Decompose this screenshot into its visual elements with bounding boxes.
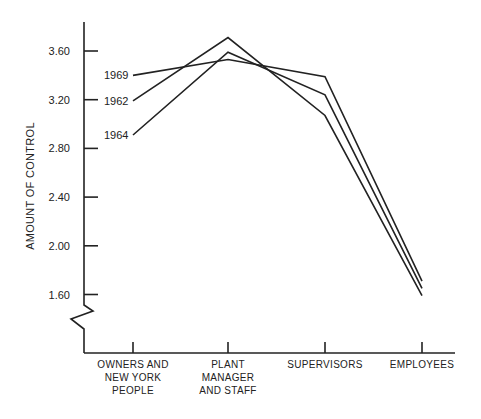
y-tick-label: 3.20 [49,94,70,106]
x-tick-label: OWNERS AND [97,359,168,370]
x-tick-label: MANAGER [202,372,255,383]
y-tick-label: 3.60 [49,45,70,57]
x-ticks: OWNERS ANDNEW YORKPEOPLEPLANTMANAGERAND … [97,342,454,396]
y-tick-label: 2.00 [49,240,70,252]
x-tick-label: PEOPLE [112,385,154,396]
x-tick-label: PLANT [211,359,245,370]
x-tick-label: AND STAFF [199,385,257,396]
y-axis-title: AMOUNT OF CONTROL [24,122,36,250]
series-label-1964: 1964 [104,129,128,141]
y-tick-label: 1.60 [49,289,70,301]
series-line-1962 [133,38,422,296]
y-axis [71,22,93,353]
y-ticks: 1.602.002.402.803.203.60 [49,45,98,301]
series-label-1962: 1962 [104,95,128,107]
series-lines [133,38,422,296]
y-tick-label: 2.80 [49,142,70,154]
x-tick-label: NEW YORK [105,372,162,383]
x-tick-label: SUPERVISORS [287,359,362,370]
series-line-1969 [133,60,422,282]
x-tick-label: EMPLOYEES [390,359,454,370]
y-tick-label: 2.40 [49,191,70,203]
series-label-1969: 1969 [104,69,128,81]
line-chart: 1.602.002.402.803.203.60 OWNERS ANDNEW Y… [0,0,481,419]
series-labels: 196919621964 [104,69,128,141]
series-line-1964 [133,52,422,288]
